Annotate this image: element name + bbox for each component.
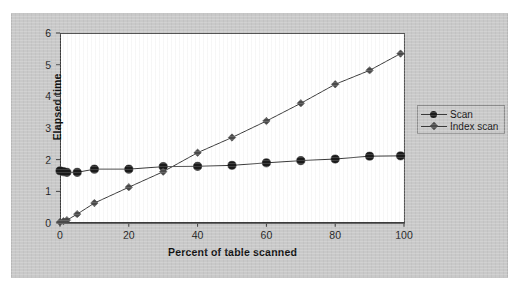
data-point-marker: [91, 199, 98, 206]
legend-item-scan: Scan: [418, 108, 504, 120]
x-axis-tick-label: 100: [389, 230, 419, 240]
legend-marker-diamond-icon: [421, 121, 447, 132]
data-point-marker: [73, 168, 81, 176]
chart-figure: 0123456 020406080100 Elapsed time Percen…: [0, 0, 524, 294]
data-point-marker: [194, 162, 202, 170]
y-axis-tick-label: 2: [33, 155, 51, 165]
data-point-marker: [194, 149, 201, 156]
data-point-marker: [366, 152, 374, 160]
data-point-marker: [397, 50, 404, 57]
data-point-marker: [396, 152, 404, 160]
legend-label-index-scan: Index scan: [447, 121, 498, 132]
data-point-marker: [297, 157, 305, 165]
data-series-group: [56, 50, 405, 226]
y-axis-tick-label: 3: [33, 123, 51, 133]
legend-item-index-scan: Index scan: [418, 120, 504, 132]
y-axis-tick-label: 0: [33, 218, 51, 228]
data-point-marker: [297, 100, 304, 107]
y-axis-tick-label: 5: [33, 60, 51, 70]
data-point-marker: [332, 81, 339, 88]
x-axis-tick-label: 20: [114, 230, 144, 240]
data-point-marker: [366, 67, 373, 74]
legend-marker-circle-icon: [421, 109, 447, 120]
data-point-marker: [125, 184, 132, 191]
x-axis-tick-label: 80: [320, 230, 350, 240]
chart-panel-background: 0123456 020406080100 Elapsed time Percen…: [11, 13, 508, 278]
x-axis-tick-label: 60: [251, 230, 281, 240]
y-axis-tick-label: 4: [33, 91, 51, 101]
legend-label-scan: Scan: [447, 109, 473, 120]
data-point-marker: [74, 210, 81, 217]
data-point-marker: [125, 165, 133, 173]
data-point-marker: [262, 159, 270, 167]
axis-ticks: [56, 33, 404, 227]
y-axis-title: Elapsed time: [51, 47, 63, 167]
data-point-marker: [63, 168, 71, 176]
data-point-marker: [263, 117, 270, 124]
x-axis-tick-label: 40: [183, 230, 213, 240]
y-axis-tick-label: 6: [33, 28, 51, 38]
data-point-marker: [228, 134, 235, 141]
chart-legend: Scan Index scan: [417, 105, 505, 134]
x-axis-title: Percent of table scanned: [60, 246, 405, 258]
y-axis-tick-label: 1: [33, 186, 51, 196]
data-point-marker: [228, 161, 236, 169]
data-point-marker: [90, 165, 98, 173]
data-point-marker: [331, 155, 339, 163]
x-axis-tick-label: 0: [45, 230, 75, 240]
